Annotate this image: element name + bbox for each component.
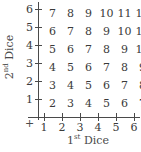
sum-grid-cell: 10 [116,26,133,37]
sum-grid-cell: 2 [44,98,61,109]
x-axis-tick [62,113,63,121]
sum-grid-cell: 4 [80,98,97,109]
sum-grid-cell: 8 [134,80,141,91]
x-axis-label-rest: Dice [80,134,109,147]
sum-grid-cell: 3 [62,98,79,109]
y-axis-tick [35,99,42,100]
sum-grid-cell: 5 [80,80,97,91]
origin-plus-symbol: + [25,118,34,129]
y-axis-tick-label: 5 [22,22,33,33]
y-axis-tick-label: 1 [22,94,33,105]
sum-grid-cell: 8 [62,8,79,19]
sum-grid-cell: 4 [62,80,79,91]
y-axis-label-rest: Dice [3,35,16,64]
y-axis-tick [35,81,42,82]
x-axis-label-base: 1 [67,134,74,147]
sum-grid-cell: 7 [116,80,133,91]
x-axis-tick-label: 2 [55,122,69,133]
sum-grid-cell: 6 [80,62,97,73]
x-axis-tick-label: 5 [109,122,123,133]
sum-grid-row: 789101112 [44,8,140,19]
y-axis-tick-label: 4 [22,40,33,51]
sum-grid-cell: 9 [116,44,133,55]
sum-grid-cell: 7 [62,26,79,37]
x-axis-tick [98,113,99,121]
x-axis-tick-label: 1 [37,122,51,133]
sum-grid-cell: 8 [98,44,115,55]
x-axis-tick-label: 4 [91,122,105,133]
y-axis-tick [35,63,42,64]
sum-grid-cell: 6 [44,26,61,37]
sum-grid-row: 67891011 [44,26,140,37]
sum-grid-cell: 9 [134,62,141,73]
y-axis-tick [35,9,42,10]
y-axis-tick-label: 2 [22,76,33,87]
x-axis-tick [80,113,81,121]
y-axis-tick-label: 3 [22,58,33,69]
sum-grid-cell: 10 [134,44,141,55]
x-axis-tick-label: 6 [127,122,141,133]
sum-grid-cell: 7 [134,98,141,109]
x-axis-label: 1st Dice [36,134,140,147]
sum-grid-cell: 9 [80,8,97,19]
sum-grid-cell: 7 [98,62,115,73]
sum-grid-cell: 6 [116,98,133,109]
sum-grid-cell: 12 [134,8,141,19]
y-axis-label-superscript: nd [2,63,10,72]
x-axis-tick [44,113,45,121]
y-axis-label-base: 2 [3,72,16,79]
sum-grid-cell: 6 [62,44,79,55]
y-axis-tick [35,27,42,28]
sum-grid-cell: 6 [98,80,115,91]
sum-grid-cell: 8 [80,26,97,37]
sum-grid-row: 456789 [44,62,140,73]
sum-grid-cell: 5 [44,44,61,55]
y-axis-line [38,2,39,120]
sum-grid-cell: 8 [116,62,133,73]
y-axis-label: 2nd Dice [3,31,17,83]
sum-grid-row: 345678 [44,80,140,91]
sum-grid-cell: 5 [98,98,115,109]
sum-grid-cell: 3 [44,80,61,91]
sum-grid-cell: 5 [62,62,79,73]
sum-grid-cell: 9 [98,26,115,37]
sum-grid-row: 234567 [44,98,140,109]
x-axis-tick-label: 3 [73,122,87,133]
x-axis-tick [134,113,135,121]
sum-grid-cell: 11 [116,8,133,19]
sum-grid-cell: 7 [80,44,97,55]
y-axis-tick [35,45,42,46]
sum-grid-cell: 7 [44,8,61,19]
sum-grid-cell: 4 [44,62,61,73]
dice-sum-chart: 2nd Dice 1st Dice + 654321 123456 789101… [0,0,141,152]
sum-grid-cell: 11 [134,26,141,37]
sum-grid-row: 5678910 [44,44,140,55]
sum-grid-cell: 10 [98,8,115,19]
x-axis-tick [116,113,117,121]
y-axis-tick-label: 6 [22,4,33,15]
